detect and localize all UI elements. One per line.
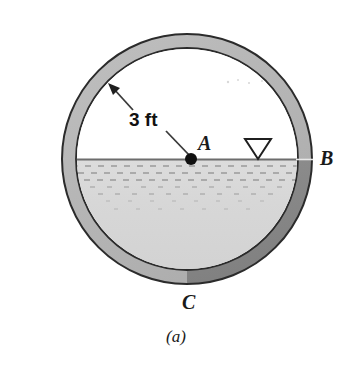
water-region: [70, 159, 310, 279]
gate-diagram-svg: [0, 0, 355, 374]
point-label-b: B: [320, 148, 333, 168]
point-label-c: C: [182, 292, 195, 312]
figure-container: 3 ft A B C (a): [0, 0, 355, 374]
point-label-a: A: [198, 133, 211, 153]
figure-caption: (a): [166, 328, 186, 345]
dimension-label: 3 ft: [129, 110, 158, 129]
air-region: [70, 45, 310, 160]
center-point-dot-icon: [185, 153, 197, 165]
